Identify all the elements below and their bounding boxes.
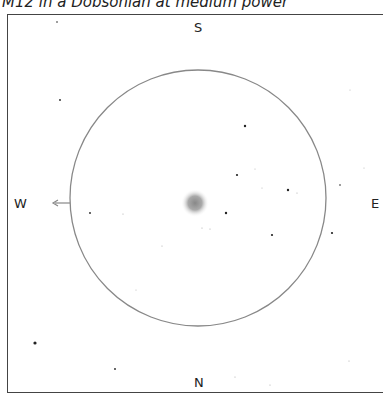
star [33,341,36,344]
star [364,168,365,169]
star [348,360,349,361]
star [114,368,116,370]
star [122,213,123,214]
star [339,184,341,186]
star [350,90,351,91]
direction-east: E [371,196,379,211]
star [331,232,333,234]
star [225,212,227,214]
direction-west: W [14,196,27,211]
star [255,169,256,170]
star-field [0,0,386,399]
star [236,174,238,176]
star [89,212,91,214]
direction-south: S [194,20,202,35]
star [287,189,289,191]
star [296,192,297,193]
star [59,99,61,101]
direction-north: N [194,375,204,390]
star [201,227,202,228]
star [209,228,210,229]
west-arrow-icon [53,200,70,206]
star [269,384,270,385]
star [262,188,263,189]
star [136,290,137,291]
globular-cluster-m12 [181,189,209,217]
star [271,234,273,236]
star [234,376,235,377]
star [56,21,58,23]
star [161,245,162,246]
star [244,125,246,127]
